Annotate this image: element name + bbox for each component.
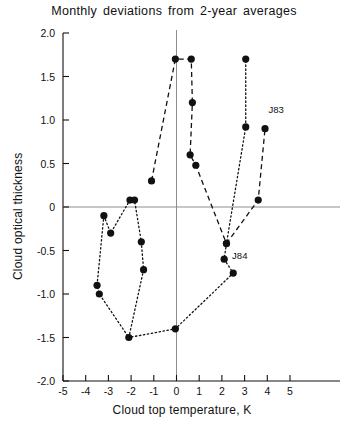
- data-point: [189, 99, 196, 106]
- data-point: [140, 266, 147, 273]
- chart-figure: Monthly deviations from 2-year averages …: [0, 0, 348, 426]
- data-point: [131, 196, 138, 203]
- x-tick-label: -5: [58, 385, 67, 397]
- x-tick-label: 3: [242, 385, 248, 397]
- x-tick-label: -1: [149, 385, 158, 397]
- x-axis-title: Cloud top temperature, K: [113, 403, 252, 417]
- data-point: [221, 256, 228, 263]
- y-tick-label: 2.0: [40, 27, 55, 39]
- x-tick-label: -2: [126, 385, 135, 397]
- data-point: [242, 56, 249, 63]
- x-tick-label: 4: [264, 385, 270, 397]
- data-point: [192, 162, 199, 169]
- point-annotation: J84: [232, 250, 247, 261]
- y-tick-label: -2.0: [37, 375, 55, 387]
- data-point: [255, 196, 262, 203]
- data-point: [148, 177, 155, 184]
- x-tick-label: 5: [287, 385, 293, 397]
- data-point: [125, 334, 132, 341]
- point-annotation: J83: [268, 104, 283, 115]
- data-point: [93, 282, 100, 289]
- x-tick-label: 0: [174, 385, 180, 397]
- y-tick-label: 1.5: [40, 71, 55, 83]
- data-point: [188, 56, 195, 63]
- y-tick-label: 1.0: [40, 114, 55, 126]
- data-point: [100, 212, 107, 219]
- axes-layer: -2.0-1.5-1.0-0.500.51.01.52.0-5-4-3-2-10…: [37, 27, 340, 397]
- data-point: [230, 270, 237, 277]
- data-point: [172, 325, 179, 332]
- y-tick-label: -0.5: [37, 245, 55, 257]
- data-point: [138, 238, 145, 245]
- data-point: [223, 240, 230, 247]
- x-tick-label: 1: [196, 385, 202, 397]
- series-line-dashed: [152, 59, 266, 243]
- series-line-dotted: [104, 59, 246, 337]
- x-tick-label: 2: [219, 385, 225, 397]
- data-point: [107, 230, 114, 237]
- y-tick-label: 0.5: [40, 158, 55, 170]
- plot-area: -2.0-1.5-1.0-0.500.51.01.52.0-5-4-3-2-10…: [0, 0, 348, 426]
- x-tick-label: -4: [81, 385, 90, 397]
- label-layer: J83J84: [232, 104, 284, 261]
- data-point: [172, 56, 179, 63]
- data-layer: [93, 56, 268, 342]
- data-point: [242, 123, 249, 130]
- data-point: [96, 290, 103, 297]
- y-axis-title: Cloud optical thickness: [11, 153, 25, 280]
- x-tick-label: -3: [104, 385, 113, 397]
- data-point: [187, 151, 194, 158]
- data-point: [261, 125, 268, 132]
- y-tick-label: 0: [49, 201, 55, 213]
- y-tick-label: -1.5: [37, 332, 55, 344]
- y-tick-label: -1.0: [37, 288, 55, 300]
